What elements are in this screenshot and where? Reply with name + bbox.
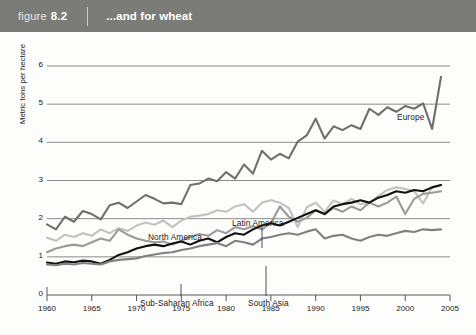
series-group [47, 77, 441, 266]
figure-number: 8.2 [51, 10, 68, 22]
x-tick-label-1960: 1960 [34, 304, 60, 313]
x-tick-label-1980: 1980 [213, 304, 239, 313]
figure-title: ...and for wheat [106, 10, 192, 22]
europe-label: Europe [397, 112, 424, 122]
y-tick-label-5: 5 [34, 98, 43, 107]
y-tick-label-2: 2 [34, 213, 43, 222]
line-chart-svg [0, 32, 476, 335]
series-line-north-america [47, 185, 441, 241]
header-divider [87, 7, 88, 26]
south-asia-label: South Asia [248, 298, 289, 308]
x-tick-label-1990: 1990 [303, 304, 329, 313]
x-tick-label-1965: 1965 [79, 304, 105, 313]
figure-container: figure 8.2 ...and for wheat Metric tons … [0, 0, 476, 335]
figure-word: figure [18, 10, 47, 22]
y-tick-label-1: 1 [34, 251, 43, 260]
x-tick-label-1995: 1995 [347, 304, 373, 313]
latin-america-label: Latin America [232, 218, 284, 228]
figure-header-bar: figure 8.2 ...and for wheat [0, 0, 476, 32]
series-line-europe [47, 77, 441, 230]
figure-header-content: figure 8.2 ...and for wheat [18, 0, 192, 32]
x-tick-label-2000: 2000 [392, 304, 418, 313]
y-tick-label-3: 3 [34, 175, 43, 184]
y-tick-label-0: 0 [34, 289, 43, 298]
y-tick-label-4: 4 [34, 136, 43, 145]
chart-plot-area: Metric tons per hectare 0123456196019651… [0, 32, 476, 335]
sub-saharan-africa-label: Sub-Saharan Africa [140, 298, 214, 308]
north-america-label: North America [148, 232, 202, 242]
x-tick-label-2005: 2005 [437, 304, 463, 313]
y-tick-label-6: 6 [34, 60, 43, 69]
